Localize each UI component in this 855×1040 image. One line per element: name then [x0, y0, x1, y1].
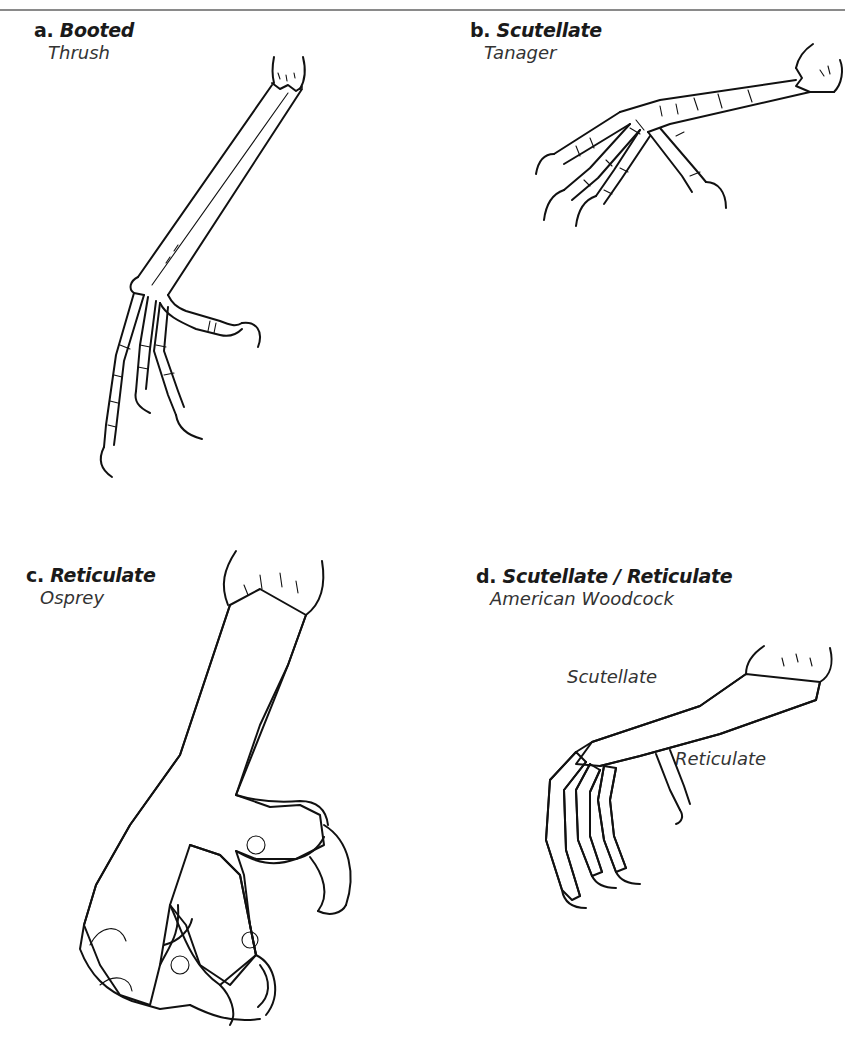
caption-title-text: Scutellate / Reticulate	[503, 565, 733, 587]
woodcock-foot-icon	[520, 640, 855, 940]
booted-thrush-foot-icon	[60, 45, 300, 485]
caption-title: b. Scutellate	[470, 20, 602, 41]
caption-title-text: Booted	[60, 19, 134, 41]
reticulate-osprey-foot-icon	[60, 545, 380, 1040]
scutellate-tanager-foot-icon	[480, 40, 855, 250]
top-rule	[0, 9, 845, 11]
caption-scutellate-reticulate: d. Scutellate / Reticulate American Wood…	[476, 566, 732, 609]
caption-title-text: Scutellate	[497, 19, 602, 41]
caption-title: a. Booted	[34, 20, 134, 41]
caption-species: American Woodcock	[490, 589, 732, 609]
caption-title: d. Scutellate / Reticulate	[476, 566, 732, 587]
